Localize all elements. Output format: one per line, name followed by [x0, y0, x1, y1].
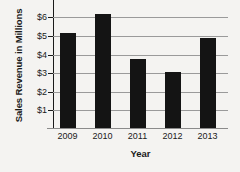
- x-tick-label: 2010: [92, 131, 112, 141]
- y-tick-label: $2: [37, 87, 47, 97]
- x-tick-label: 2013: [197, 131, 217, 141]
- bar: [200, 38, 216, 128]
- bar: [60, 33, 76, 128]
- y-axis-tick: [48, 92, 53, 93]
- plot-area: $1$2$3$4$5$6 20092010201120122013: [53, 8, 228, 129]
- y-axis-tick: [48, 36, 53, 37]
- y-axis-tick: [48, 17, 53, 18]
- y-tick-label: $4: [37, 50, 47, 60]
- y-axis-tick: [48, 110, 53, 111]
- x-tick-label: 2012: [162, 131, 182, 141]
- y-tick-label: $1: [37, 105, 47, 115]
- bar: [165, 72, 181, 128]
- gridline: [53, 17, 228, 18]
- y-axis-title: Sales Revenue in Millions: [13, 6, 24, 126]
- y-axis-tick: [48, 73, 53, 74]
- bar: [95, 14, 111, 128]
- y-tick-label: $5: [37, 31, 47, 41]
- x-axis-title: Year: [53, 148, 228, 159]
- bar-chart-figure: Sales Revenue in Millions $1$2$3$4$5$6 2…: [0, 0, 240, 172]
- x-tick-label: 2009: [57, 131, 77, 141]
- bar: [130, 59, 146, 128]
- y-axis-tick: [48, 55, 53, 56]
- y-tick-label: $3: [37, 68, 47, 78]
- y-tick-label: $6: [37, 12, 47, 22]
- x-tick-label: 2011: [128, 131, 147, 141]
